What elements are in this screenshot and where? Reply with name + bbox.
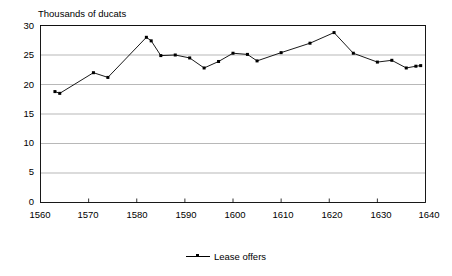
data-point xyxy=(150,39,153,42)
data-point xyxy=(106,76,109,79)
legend-entry-lease-offers: Lease offers xyxy=(186,250,266,262)
data-point xyxy=(390,59,393,62)
data-point xyxy=(174,54,177,57)
data-point xyxy=(92,71,95,74)
data-point xyxy=(246,53,249,56)
data-point xyxy=(376,61,379,64)
data-point xyxy=(309,42,312,45)
data-point xyxy=(145,36,148,39)
data-point xyxy=(232,52,235,55)
data-point xyxy=(256,59,259,62)
data-point xyxy=(352,52,355,55)
data-point xyxy=(280,51,283,54)
data-point xyxy=(405,66,408,69)
data-point xyxy=(53,90,56,93)
data-point xyxy=(203,66,206,69)
data-point xyxy=(58,92,61,95)
data-point xyxy=(217,60,220,63)
legend-line-marker-icon xyxy=(186,252,210,261)
plot-area xyxy=(0,0,452,276)
line-chart: Thousands of ducats 30 25 20 15 10 5 0 1… xyxy=(0,0,452,276)
data-point xyxy=(188,56,191,59)
legend-label: Lease offers xyxy=(214,251,266,262)
data-point xyxy=(333,31,336,34)
legend: Lease offers xyxy=(0,250,452,262)
data-point xyxy=(419,64,422,67)
x-axis-ticks xyxy=(89,199,378,203)
gridlines xyxy=(41,26,426,174)
data-point xyxy=(414,65,417,68)
series-markers-lease-offers xyxy=(53,31,422,95)
data-point xyxy=(159,54,162,57)
